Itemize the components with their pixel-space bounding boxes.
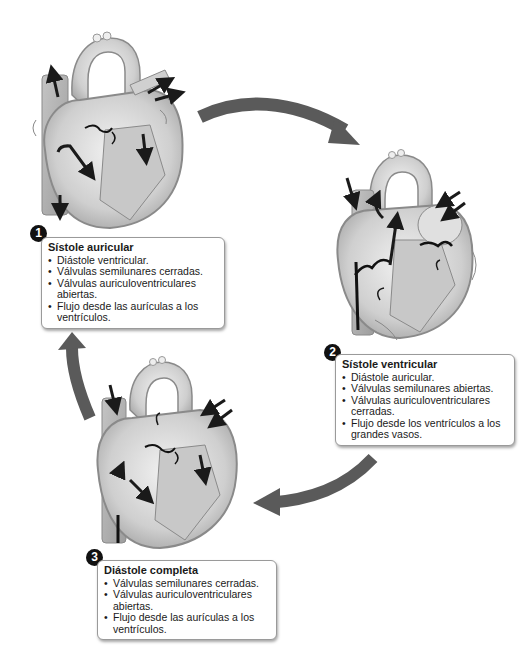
phase-3-info-box: Diástole completa Válvulas semilunares c… [97,560,277,640]
phase-3-bullet: Válvulas auriculoventriculares abiertas. [104,589,270,612]
phase-1-bullet: Válvulas semilunares cerradas. [48,266,218,278]
phase-2-bullets: Diástole auricular. Válvulas semilunares… [342,372,508,441]
phase-2-bullet: Flujo desde los ventrículos a los grande… [342,418,508,441]
phase-1-bullet: Flujo desde las aurículas a los ventrícu… [48,301,218,324]
phase-2-bullet: Válvulas auriculoventriculares cerradas. [342,395,508,418]
cycle-arrow-1-to-2 [200,104,360,145]
heart-phase-1 [33,32,183,228]
phase-2-info-box: Sístole ventricular Diástole auricular. … [335,354,515,446]
phase-1-title: Sístole auricular [48,242,218,254]
phase-2-bullet: Válvulas semilunares abiertas. [342,383,508,395]
heart-phase-2 [337,150,476,341]
cycle-arrow-3-to-1 [58,332,90,418]
heart-phase-3 [97,357,236,549]
phase-2-title: Sístole ventricular [342,359,508,371]
phase-3-bullets: Válvulas semilunares cerradas. Válvulas … [104,578,270,636]
phase-3-bullet: Flujo desde las aurículas a los ventrícu… [104,612,270,635]
phase-1-info-box: Sístole auricular Diástole ventricular. … [41,237,225,329]
cycle-arrow-2-to-3 [253,458,373,516]
phase-1-bullet: Válvulas auriculoventriculares abiertas. [48,278,218,301]
phase-3-title: Diástole completa [104,565,270,577]
cardiac-cycle-diagram: 1 Sístole auricular Diástole ventricular… [0,0,519,665]
phase-1-bullets: Diástole ventricular. Válvulas semilunar… [48,255,218,324]
